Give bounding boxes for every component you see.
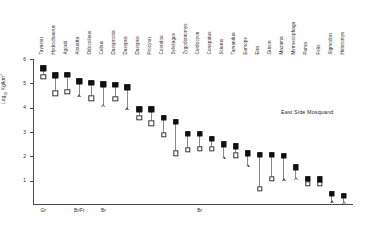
category-label: Felis [317, 45, 322, 55]
data-point-upper [305, 176, 310, 181]
category-label: Mazama [281, 37, 286, 55]
data-point-upper [53, 73, 58, 78]
plot-annotation: East Side Mosquand [281, 110, 333, 115]
figure-root: 123456 Log10 Kg/km2 TayassuHydrochaerusA… [0, 0, 365, 227]
data-point-upper [173, 119, 178, 124]
y-tick-label-1: 1 [14, 178, 26, 183]
guild-label: Br/Fr [74, 209, 85, 214]
category-label: Myrmecophaga [293, 22, 298, 55]
data-point-upper [41, 66, 46, 71]
category-label: Heteromys [341, 32, 346, 55]
y-axis-label: Log10 Kg/km2 [0, 74, 9, 104]
category-label: Grison [269, 41, 274, 55]
category-label: Cebus [100, 41, 105, 55]
data-point-upper [89, 80, 94, 85]
category-label: Eira [257, 46, 262, 55]
category-label: Sciurus [221, 39, 226, 55]
data-point-upper [257, 152, 262, 157]
y-tick-label-3: 3 [14, 130, 26, 135]
data-point-upper [185, 131, 190, 136]
category-label: Dasyprocta [112, 31, 117, 55]
plot-area [33, 59, 353, 205]
data-point-upper [149, 107, 154, 112]
data-point-upper [245, 151, 250, 156]
category-label: Procyon [149, 37, 154, 55]
category-label: Puma [305, 43, 310, 55]
data-point-upper [233, 143, 238, 148]
y-tick-label-4: 4 [14, 105, 26, 110]
category-label: Tamandua [233, 33, 238, 55]
category-label: Conepatus [209, 32, 214, 55]
data-point-upper [101, 82, 106, 87]
category-label: Coendou [161, 36, 166, 55]
y-tick-label-2: 2 [14, 154, 26, 159]
category-label: Zygodontomys [185, 24, 190, 55]
data-point-upper [317, 177, 322, 182]
data-point-upper [113, 82, 118, 87]
data-point-upper [77, 79, 82, 84]
data-point-upper [137, 107, 142, 112]
data-point-upper [161, 115, 166, 120]
data-point-upper [221, 141, 226, 146]
category-label: Sylvilagus [173, 33, 178, 55]
guild-label: Br [197, 209, 202, 214]
data-point-upper [293, 165, 298, 170]
category-label: Cerdocyon [197, 32, 202, 55]
category-label: Dasypus [136, 36, 141, 55]
category-label: Hydrochaerus [52, 25, 57, 55]
category-label: Agouti [64, 41, 69, 55]
series-upper-value [33, 59, 353, 205]
guild-label: Br [101, 209, 106, 214]
guild-label: Gr [41, 209, 46, 214]
category-label: Alouatta [76, 37, 81, 55]
data-point-upper [209, 136, 214, 141]
y-tick-label-6: 6 [14, 57, 26, 62]
category-label: Sigmodon [329, 34, 334, 56]
category-label: Tayassu [40, 37, 45, 55]
category-labels: TayassuHydrochaerusAgoutiAlouattaOdocoil… [33, 0, 353, 57]
data-point-upper [329, 191, 334, 196]
y-tick-label-5: 5 [14, 81, 26, 86]
data-point-upper [341, 193, 346, 198]
category-label: Eumops [245, 38, 250, 55]
data-point-upper [125, 85, 130, 90]
category-label: Dasypus [124, 36, 129, 55]
data-point-upper [65, 72, 70, 77]
category-label: Odocoileus [88, 31, 93, 55]
data-point-upper [269, 152, 274, 157]
data-point-upper [281, 153, 286, 158]
data-point-upper [197, 131, 202, 136]
